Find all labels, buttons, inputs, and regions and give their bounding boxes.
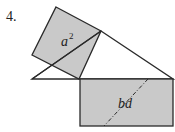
rectangle-label: bd [118,96,133,111]
geometry-diagram: a 2 bd [0,0,175,132]
square-label: a [61,34,68,49]
square-label-exponent: 2 [69,31,74,41]
